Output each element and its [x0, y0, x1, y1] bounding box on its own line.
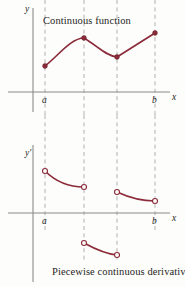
top-y-axis-label: y	[25, 4, 29, 14]
continuous-function-curve	[45, 33, 155, 66]
dashed-connectors	[45, 0, 155, 262]
derivative-segment	[84, 243, 117, 255]
open-circle-marker	[115, 253, 120, 258]
open-circle-marker	[82, 241, 87, 246]
point-marker	[115, 55, 120, 60]
top-tick-label-b: b	[152, 95, 157, 105]
top-caption: Continuous function	[43, 15, 131, 26]
point-marker	[82, 36, 87, 41]
open-circle-marker	[43, 169, 48, 174]
open-circle-marker	[82, 185, 87, 190]
top-tick-label-a: a	[42, 95, 47, 105]
bottom-tick-label-a: a	[42, 216, 47, 226]
open-circle-marker	[153, 199, 158, 204]
bottom-x-axis-label: x	[172, 213, 176, 223]
derivative-segment	[117, 192, 155, 201]
figure-canvas	[0, 0, 185, 287]
bottom-tick-label-b: b	[152, 216, 157, 226]
point-marker	[43, 64, 48, 69]
point-marker	[153, 31, 158, 36]
bottom-caption: Piecewise continuous derivative	[52, 266, 185, 277]
open-circle-marker	[115, 190, 120, 195]
top-x-axis-label: x	[172, 92, 176, 102]
bottom-y-axis-label: y'	[25, 148, 31, 158]
math-figure: Continuous function Piecewise continuous…	[0, 0, 185, 287]
bottom-plot	[8, 145, 170, 282]
derivative-segment	[45, 171, 84, 187]
